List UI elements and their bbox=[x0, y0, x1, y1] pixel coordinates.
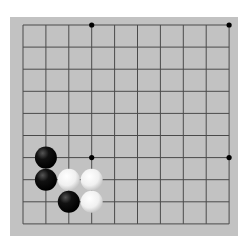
grid-lines bbox=[23, 25, 229, 224]
black-stone bbox=[35, 147, 57, 169]
white-stone bbox=[58, 169, 80, 191]
white-stone bbox=[81, 169, 103, 191]
black-stone bbox=[58, 191, 80, 213]
star-point bbox=[89, 22, 94, 27]
star-point bbox=[89, 155, 94, 160]
star-point bbox=[227, 22, 232, 27]
white-stone bbox=[81, 191, 103, 213]
black-stone bbox=[35, 169, 57, 191]
star-point bbox=[227, 155, 232, 160]
go-board-grid[interactable] bbox=[0, 0, 252, 249]
